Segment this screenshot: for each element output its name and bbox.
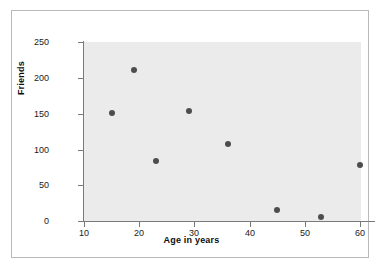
y-tick-mark [78, 185, 83, 186]
x-tick-mark [360, 222, 361, 227]
y-tick-mark [78, 150, 83, 151]
x-tick-mark [139, 222, 140, 227]
x-tick-mark [305, 222, 306, 227]
data-point [131, 67, 137, 73]
x-tick-mark [84, 222, 85, 227]
y-tick-mark [78, 42, 83, 43]
y-tick-mark [78, 78, 83, 79]
data-point [225, 141, 231, 147]
data-point [153, 158, 159, 164]
data-point [109, 110, 115, 116]
y-tick-mark [78, 114, 83, 115]
x-axis-line [83, 221, 375, 222]
figure-frame: 0 50 100 150 200 250 10 20 30 40 50 60 [11, 10, 369, 258]
y-axis-title: Friends [16, 61, 26, 95]
y-tick-label: 200 [34, 74, 49, 83]
y-axis-line [83, 41, 84, 222]
plot-panel [84, 42, 361, 221]
x-tick-mark [194, 222, 195, 227]
data-point [357, 162, 363, 168]
x-tick-mark [250, 222, 251, 227]
y-tick-label: 150 [34, 110, 49, 119]
y-tick-label: 100 [34, 146, 49, 155]
x-axis-title: Age in years [0, 235, 383, 245]
y-tick-label: 250 [34, 38, 49, 47]
y-tick-mark [78, 221, 83, 222]
scatter-plot-figure: 0 50 100 150 200 250 10 20 30 40 50 60 A… [0, 0, 383, 272]
y-tick-label: 0 [44, 217, 49, 226]
y-tick-label: 50 [39, 181, 49, 190]
